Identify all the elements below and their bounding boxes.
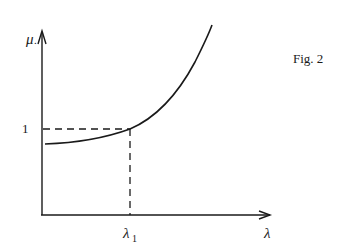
- figure-canvas: μ . 1 λ 1 λ Fig. 2: [0, 0, 343, 249]
- y-tick-label: 1: [22, 121, 29, 136]
- mu-lambda-curve: [45, 25, 212, 144]
- x-axis-label: λ: [263, 225, 271, 241]
- figure-caption: Fig. 2: [293, 51, 323, 66]
- y-axis: [38, 31, 46, 215]
- x-axis: [41, 211, 270, 219]
- y-axis-label-dot: .: [34, 34, 37, 46]
- y-axis-label: μ: [25, 31, 34, 47]
- x-tick-subscript: 1: [132, 233, 137, 244]
- x-tick-label: λ: [122, 225, 130, 241]
